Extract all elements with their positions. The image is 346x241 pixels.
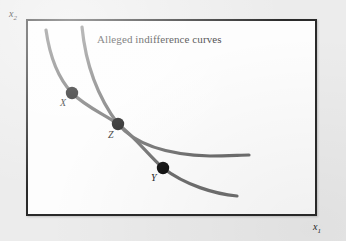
data-point-x — [66, 87, 78, 99]
y-axis-label: x2 — [9, 8, 17, 22]
figure-canvas: x2 x1 Alleged indifference curves X Z Y — [0, 0, 346, 241]
chart-title: Alleged indifference curves — [97, 33, 222, 45]
y-axis-label-subscript: 2 — [13, 14, 17, 22]
point-label-y: Y — [151, 172, 157, 183]
x-axis-label-subscript: 1 — [317, 227, 321, 235]
x-axis-label: x1 — [313, 221, 321, 235]
data-point-y — [157, 162, 169, 174]
point-label-z: Z — [108, 129, 114, 140]
curve-a-path — [46, 30, 237, 196]
point-label-x: X — [60, 97, 66, 108]
